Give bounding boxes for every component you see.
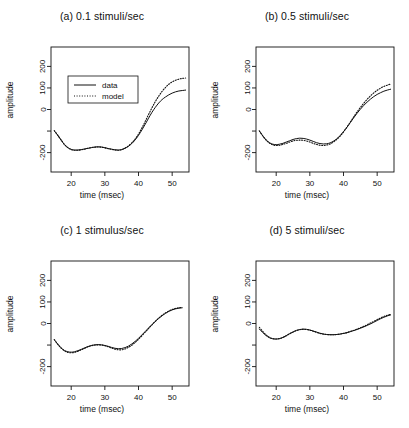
panel-d: (d) 5 stimuli/sec amplitude time (msec) …: [205, 214, 409, 428]
svg-text:100: 100: [244, 295, 253, 309]
svg-text:100: 100: [39, 81, 48, 95]
svg-text:30: 30: [305, 179, 314, 188]
svg-text:200: 200: [39, 273, 48, 287]
svg-text:40: 40: [134, 179, 143, 188]
svg-text:data: data: [102, 81, 118, 90]
svg-text:-200: -200: [244, 144, 253, 161]
svg-text:20: 20: [272, 393, 281, 402]
svg-text:50: 50: [373, 179, 382, 188]
panel-d-plot: 20304050-2000100200: [205, 214, 409, 428]
svg-text:0: 0: [39, 321, 48, 326]
svg-text:20: 20: [67, 393, 76, 402]
svg-text:model: model: [102, 92, 124, 101]
panel-c-plot: 20304050-2000100200: [0, 214, 204, 428]
svg-text:30: 30: [100, 393, 109, 402]
figure-panel-grid: (a) 0.1 stimuli/sec amplitude time (msec…: [0, 0, 409, 428]
panel-b: (b) 0.5 stimuli/sec amplitude time (msec…: [205, 0, 409, 214]
svg-text:0: 0: [244, 107, 253, 112]
svg-text:200: 200: [244, 59, 253, 73]
svg-text:0: 0: [39, 107, 48, 112]
svg-text:20: 20: [272, 179, 281, 188]
svg-text:-200: -200: [39, 144, 48, 161]
svg-text:30: 30: [100, 179, 109, 188]
svg-text:100: 100: [39, 295, 48, 309]
svg-text:0: 0: [244, 321, 253, 326]
svg-text:100: 100: [244, 81, 253, 95]
panel-a-plot: 20304050-2000100200datamodel: [0, 0, 204, 214]
svg-text:40: 40: [339, 393, 348, 402]
svg-text:50: 50: [168, 393, 177, 402]
svg-text:200: 200: [244, 273, 253, 287]
panel-c: (c) 1 stimulus/sec amplitude time (msec)…: [0, 214, 204, 428]
svg-text:30: 30: [305, 393, 314, 402]
svg-text:-200: -200: [244, 358, 253, 375]
svg-text:40: 40: [134, 393, 143, 402]
svg-text:50: 50: [168, 179, 177, 188]
svg-text:20: 20: [67, 179, 76, 188]
svg-text:-200: -200: [39, 358, 48, 375]
svg-text:50: 50: [373, 393, 382, 402]
svg-text:40: 40: [339, 179, 348, 188]
svg-text:200: 200: [39, 59, 48, 73]
panel-b-plot: 20304050-2000100200: [205, 0, 409, 214]
panel-a: (a) 0.1 stimuli/sec amplitude time (msec…: [0, 0, 204, 214]
